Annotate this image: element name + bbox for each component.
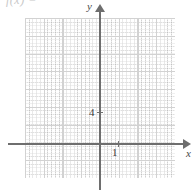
x-axis-line	[8, 143, 186, 145]
up-arrow-icon	[95, 4, 105, 12]
x-axis-tick-label-1: 1	[112, 146, 118, 158]
y-axis-line	[99, 10, 101, 190]
y-axis-label: y	[87, 0, 92, 12]
y-axis-tick-label-4: 4	[89, 106, 95, 118]
x-axis-tick-1	[118, 141, 119, 147]
x-axis-label: x	[186, 147, 191, 159]
graph-figure: f(x) = y x 4 1	[0, 0, 196, 194]
y-axis-tick-4	[97, 112, 103, 113]
formula-fragment-text: f(x) =	[6, 0, 37, 8]
